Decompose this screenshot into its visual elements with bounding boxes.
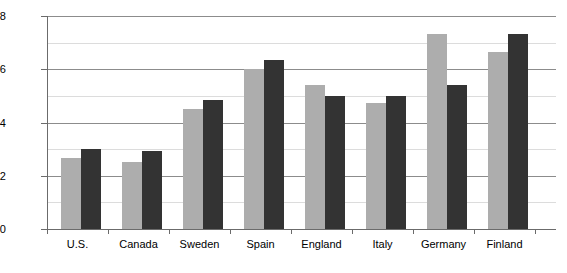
- x-tick-mark: [413, 229, 414, 234]
- bar-series1: [366, 103, 386, 229]
- x-tick-mark: [108, 229, 109, 234]
- x-tick-mark: [535, 229, 536, 234]
- x-tick-mark: [47, 229, 48, 234]
- x-tick-mark: [169, 229, 170, 234]
- bars-layer: [47, 16, 556, 229]
- x-category-label-sweden: Sweden: [169, 238, 230, 251]
- x-category-label-canada: Canada: [108, 238, 169, 251]
- bar-group: [122, 16, 162, 229]
- bar-series1: [488, 52, 508, 230]
- y-tick-label-46: 46: [0, 64, 6, 75]
- x-tick-mark: [230, 229, 231, 234]
- bar-group: [244, 16, 284, 229]
- y-tick-label-34: 34: [0, 118, 6, 129]
- bar-series2: [264, 60, 284, 229]
- x-category-label-finland: Finland: [474, 238, 535, 251]
- x-category-label-spain: Spain: [230, 238, 291, 251]
- bar-series1: [427, 34, 447, 229]
- y-tick-label-10: 10: [0, 224, 6, 235]
- bar-series2: [386, 96, 406, 229]
- x-tick-mark: [352, 229, 353, 234]
- bar-series1: [305, 85, 325, 229]
- bar-group: [488, 16, 528, 229]
- bar-group: [427, 16, 467, 229]
- bar-series1: [183, 109, 203, 229]
- x-category-label-italy: Italy: [352, 238, 413, 251]
- x-tick-mark: [291, 229, 292, 234]
- y-tick-label-58: 58: [0, 11, 6, 22]
- x-axis-line: [47, 229, 556, 230]
- bar-series2: [325, 96, 345, 229]
- x-category-label-germany: Germany: [413, 238, 474, 251]
- bar-series1: [244, 69, 264, 229]
- bar-series2: [142, 151, 162, 229]
- x-category-label-us: U.S.: [47, 238, 108, 251]
- bar-series1: [61, 158, 81, 229]
- bar-group: [366, 16, 406, 229]
- x-category-label-england: England: [291, 238, 352, 251]
- bar-series2: [81, 149, 101, 229]
- x-tick-mark: [474, 229, 475, 234]
- bar-series2: [447, 85, 467, 229]
- bar-chart: 58 46 34 22 10: [0, 0, 567, 273]
- bar-group: [183, 16, 223, 229]
- bar-series2: [508, 34, 528, 229]
- bar-group: [305, 16, 345, 229]
- bar-group: [61, 16, 101, 229]
- bar-series1: [122, 162, 142, 229]
- y-tick-label-22: 22: [0, 171, 6, 182]
- bar-series2: [203, 100, 223, 229]
